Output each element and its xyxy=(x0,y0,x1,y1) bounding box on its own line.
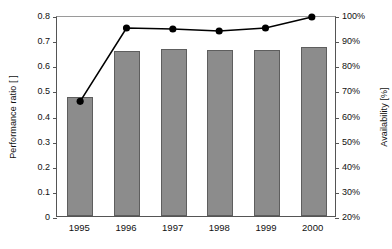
line-marker xyxy=(308,13,315,20)
line-marker xyxy=(262,24,269,31)
y-tick-label-right: 90% xyxy=(342,37,360,46)
y-tick-label-left: 0.2 xyxy=(37,163,50,172)
x-tick-label: 2000 xyxy=(288,222,338,233)
y-tick-right xyxy=(335,218,339,219)
y-axis-left-title: Performance ratio [ ] xyxy=(8,42,18,192)
y-tick-label-right: 60% xyxy=(342,113,360,122)
plot-area: 00.10.20.30.40.50.60.70.8 20%30%40%50%60… xyxy=(56,16,336,217)
y-tick-label-right: 40% xyxy=(342,163,360,172)
y-tick-right xyxy=(335,143,339,144)
y-tick-label-left: 0.6 xyxy=(37,62,50,71)
line-series xyxy=(57,17,335,217)
y-tick-label-right: 80% xyxy=(342,62,360,71)
y-tick-right xyxy=(335,168,339,169)
chart-figure: Performance ratio [ ] Availability [%] 0… xyxy=(0,0,392,249)
availability-line xyxy=(80,17,312,101)
y-tick-right xyxy=(335,42,339,43)
y-tick-label-left: 0.7 xyxy=(37,37,50,46)
x-tick-label: 1995 xyxy=(54,222,104,233)
y-tick-left xyxy=(53,218,57,219)
y-tick-label-left: 0.3 xyxy=(37,138,50,147)
x-tick-label: 1999 xyxy=(241,222,291,233)
y-tick-right xyxy=(335,193,339,194)
line-marker xyxy=(77,98,84,105)
x-tick-label: 1998 xyxy=(194,222,244,233)
y-tick-label-left: 0 xyxy=(45,213,50,222)
y-tick-label-left: 0.4 xyxy=(37,113,50,122)
y-tick-label-right: 20% xyxy=(342,213,360,222)
y-tick-right xyxy=(335,67,339,68)
line-marker xyxy=(123,24,130,31)
x-tick-label: 1997 xyxy=(148,222,198,233)
y-tick-right xyxy=(335,92,339,93)
y-tick-label-right: 30% xyxy=(342,188,360,197)
line-marker xyxy=(216,27,223,34)
y-tick-label-right: 70% xyxy=(342,87,360,96)
y-tick-label-left: 0.8 xyxy=(37,12,50,21)
x-tick-label: 1996 xyxy=(101,222,151,233)
y-tick-label-right: 50% xyxy=(342,138,360,147)
y-tick-right xyxy=(335,118,339,119)
y-tick-label-left: 0.5 xyxy=(37,87,50,96)
y-tick-right xyxy=(335,17,339,18)
y-tick-label-left: 0.1 xyxy=(37,188,50,197)
line-marker xyxy=(169,25,176,32)
y-tick-label-right: 100% xyxy=(342,12,365,21)
y-axis-right-title: Availability [%] xyxy=(379,42,389,192)
